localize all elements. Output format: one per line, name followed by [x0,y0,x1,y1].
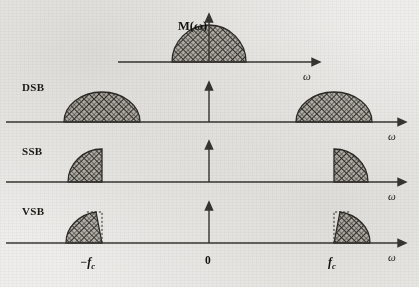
ssb-h-arrow [398,178,406,185]
hump-ssb-negative [68,149,102,182]
tick-label-zero: 0 [205,254,211,266]
row-label-ssb: SSB [22,145,43,157]
spectra-diagram: M(ω) ω DSB ω SSB ω VSB ω [0,0,419,287]
m-omega-label: M(ω) [178,19,207,33]
tick-labels: −fc 0 fc [80,254,336,271]
hump-vsb-positive [334,212,370,243]
omega-label-dsb: ω [388,130,396,142]
omega-label-baseband: ω [303,70,311,82]
row-label-dsb: DSB [22,81,45,93]
hump-dsb-negative [64,92,140,122]
dsb-h-arrow [398,118,406,125]
baseband-h-arrow [312,58,320,65]
hump-vsb-negative [66,212,102,243]
tick-label-pos-fc: fc [328,255,336,271]
hump-dsb-positive [296,92,372,122]
omega-label-vsb: ω [388,251,396,263]
row-ssb: SSB ω [6,141,406,202]
ssb-v-arrow [205,141,212,149]
omega-label-ssb: ω [388,190,396,202]
row-baseband: M(ω) ω [118,14,320,82]
row-dsb: DSB ω [6,81,406,142]
vsb-h-arrow [398,239,406,246]
figure-canvas: M(ω) ω DSB ω SSB ω VSB ω [0,0,419,287]
tick-label-neg-fc: −fc [80,255,95,271]
hump-ssb-positive [334,149,368,182]
vsb-v-arrow [205,202,212,210]
dsb-v-arrow [205,82,212,90]
row-label-vsb: VSB [22,205,45,217]
